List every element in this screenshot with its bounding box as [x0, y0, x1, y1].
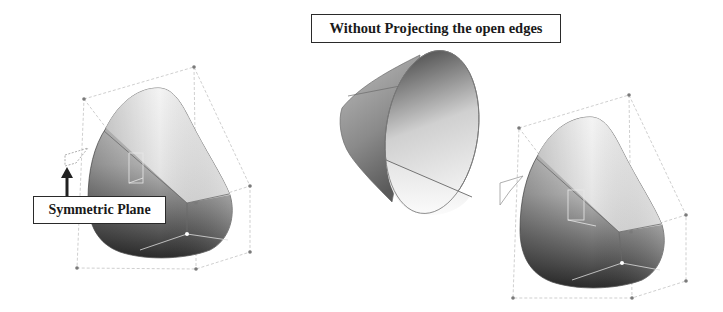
right-plane-icon [500, 176, 523, 205]
middle-surface-figure [340, 44, 489, 219]
symmetric-plane-label: Symmetric Plane [33, 196, 166, 224]
right-surface-figure [500, 93, 688, 300]
diagram-canvas [0, 0, 723, 312]
arrow-up-icon [61, 167, 73, 196]
title-label: Without Projecting the open edges [311, 14, 561, 43]
left-origin-point [185, 232, 189, 236]
right-origin-point [620, 261, 624, 265]
symmetric-plane-icon [65, 148, 88, 166]
left-surface-figure [61, 65, 252, 271]
